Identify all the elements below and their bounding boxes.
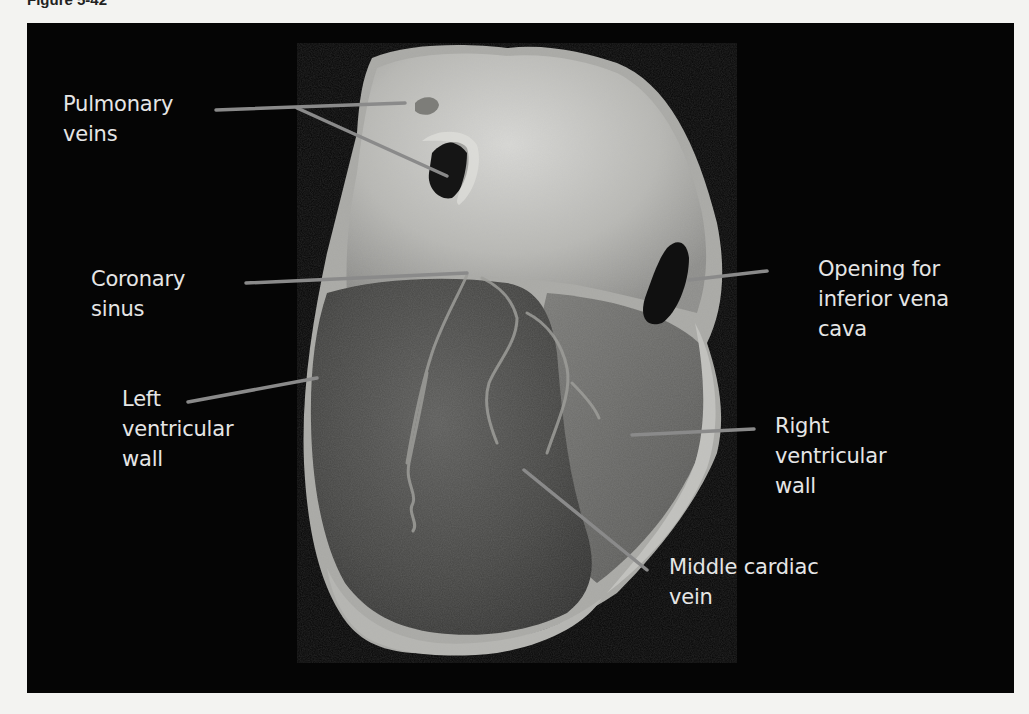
figure-caption: Figure 5-42	[27, 0, 107, 8]
leader-line-coronary-sinus	[246, 273, 467, 283]
leader-lines	[27, 23, 1014, 693]
label-opening-ivc: Opening for inferior vena cava	[818, 254, 949, 344]
leader-line-opening-ivc	[689, 271, 767, 280]
leader-line-right-ventricular-wall	[632, 429, 754, 435]
figure-panel: Pulmonary veins Coronary sinus Left vent…	[27, 23, 1014, 693]
label-left-ventricular-wall: Left ventricular wall	[122, 384, 233, 474]
label-pulmonary-veins: Pulmonary veins	[63, 89, 173, 149]
label-coronary-sinus: Coronary sinus	[91, 264, 185, 324]
leader-line-middle-cardiac-vein	[524, 470, 647, 570]
leader-line-pulmonary-veins-a	[216, 103, 405, 110]
label-middle-cardiac-vein: Middle cardiac vein	[669, 552, 819, 612]
leader-line-pulmonary-veins-b	[297, 108, 447, 176]
label-right-ventricular-wall: Right ventricular wall	[775, 411, 886, 501]
